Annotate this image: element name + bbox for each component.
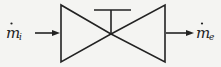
arrow-head-icon	[52, 30, 60, 36]
dot-accent	[201, 22, 203, 24]
valve-left-triangle	[61, 5, 111, 62]
inlet-subscript: i	[19, 32, 22, 42]
dot-accent	[10, 22, 12, 24]
valve-body	[61, 5, 165, 62]
outlet-label: m e	[196, 22, 214, 42]
valve-diagram: m i m e	[0, 0, 221, 67]
valve-right-triangle	[111, 5, 165, 62]
arrow-head-icon	[186, 30, 194, 36]
inlet-arrow	[35, 30, 60, 36]
outlet-arrow	[166, 30, 194, 36]
inlet-label: m i	[6, 22, 22, 42]
outlet-subscript: e	[209, 32, 214, 42]
